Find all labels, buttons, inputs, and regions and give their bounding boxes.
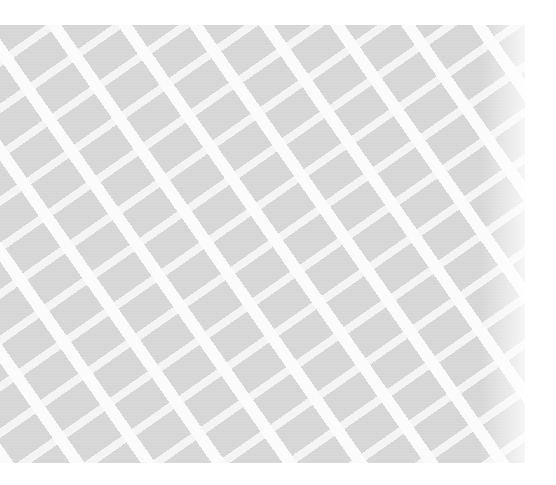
texture-edge-fade [480,25,530,463]
fabric-texture [0,25,525,463]
